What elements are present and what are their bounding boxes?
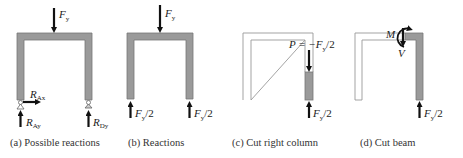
structural-frame-figure: Fy RAx RAy RDy (a) Possible reactions Fy… [0, 0, 463, 158]
free-body-column [305, 72, 313, 100]
removed-frame-outline [355, 33, 405, 100]
right-reaction-label: Fy/2 [193, 107, 213, 122]
reaction-ay-label: RAy [25, 116, 41, 130]
panel-b-reactions: Fy Fy/2 Fy/2 (b) Reactions [127, 5, 213, 149]
load-label: Fy [164, 7, 176, 22]
panel-d-cut-beam: M V Fy/2 (d) Cut beam [355, 28, 443, 149]
load-label: Fy [58, 8, 70, 23]
free-body-member [405, 33, 423, 100]
shear-label: V [398, 47, 406, 59]
frame-member [17, 33, 92, 100]
caption-c: (c) Cut right column [232, 137, 319, 149]
caption-b: (b) Reactions [128, 137, 184, 149]
reaction-dy-label: RDy [92, 116, 109, 130]
moment-label: M [385, 28, 396, 40]
pin-support-icon [17, 101, 24, 110]
caption-a: (a) Possible reactions [10, 137, 100, 149]
roller-support-icon [85, 101, 92, 109]
panel-a-possible-reactions: Fy RAx RAy RDy (a) Possible reactions [10, 8, 109, 149]
left-reaction-label: Fy/2 [134, 107, 154, 122]
caption-d: (d) Cut beam [360, 137, 415, 149]
reaction-label: Fy/2 [423, 107, 443, 122]
panel-c-cut-right-column: P = −Fy/2 Fy/2 (c) Cut right column [232, 33, 335, 149]
frame-member [127, 33, 193, 99]
reaction-ax-label: RAx [29, 88, 46, 102]
reaction-label: Fy/2 [312, 107, 332, 122]
